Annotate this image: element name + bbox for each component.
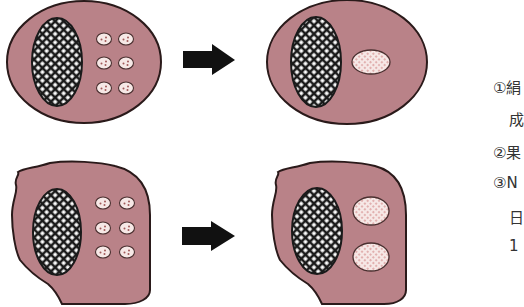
note-2: ②果 — [493, 141, 521, 162]
arrow-right-icon — [183, 44, 235, 75]
cell-bottom-after — [272, 162, 406, 304]
nucleus — [33, 189, 81, 275]
cell-top-before — [7, 1, 161, 123]
granule-large — [353, 243, 389, 271]
nucleus — [291, 17, 341, 107]
note-1-cont: 成 — [509, 108, 524, 129]
nucleus — [32, 18, 82, 106]
nucleus — [292, 188, 342, 274]
cell-bottom-before — [12, 162, 150, 304]
granule-large — [353, 197, 389, 225]
note-3-cont: 日 — [509, 206, 524, 227]
cell-top-after — [267, 0, 427, 124]
note-1: ①絹 — [493, 76, 521, 97]
granule-large — [352, 50, 390, 74]
note-3-cont2: 1 — [509, 237, 519, 255]
cytoplasm — [7, 1, 161, 123]
note-3: ③N — [493, 174, 518, 192]
arrow-right-icon — [182, 221, 235, 251]
